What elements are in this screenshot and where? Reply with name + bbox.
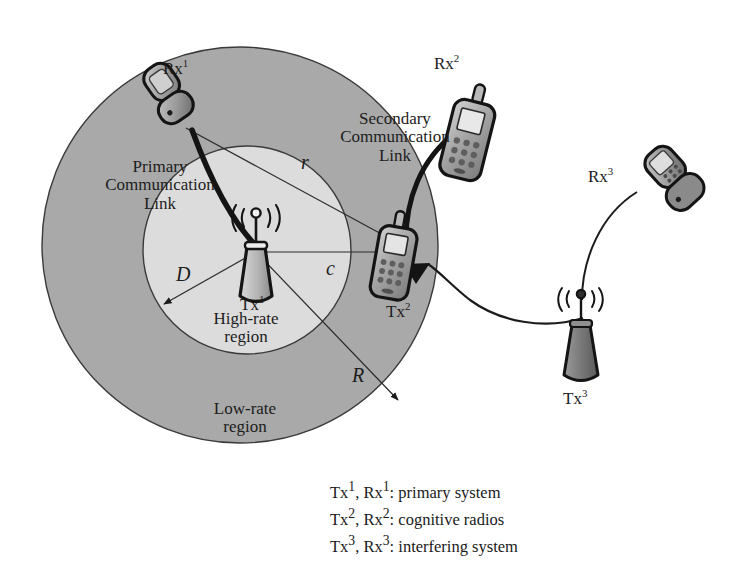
measure-c-label: c	[326, 258, 335, 280]
measure-R-label: R	[352, 365, 364, 387]
tx2-label: Tx2	[386, 303, 410, 321]
primary-link-line2: Communication	[85, 176, 235, 194]
legend-tx: Tx	[330, 483, 348, 502]
tx1-antenna-tip	[251, 208, 260, 217]
legend-rx: Rx	[363, 483, 382, 502]
low-rate-line2: region	[180, 418, 310, 436]
measure-D-label: D	[176, 264, 190, 286]
primary-link-line3: Link	[85, 195, 235, 213]
secondary-link-line3: Link	[330, 147, 460, 165]
legend-row: Tx2, Rx2: cognitive radios	[330, 504, 518, 531]
high-rate-line1: High-rate	[181, 310, 311, 328]
low-rate-line1: Low-rate	[180, 400, 310, 418]
tx3-wave-left-inner	[567, 291, 569, 307]
tx3-tower-body	[564, 325, 598, 381]
rx3-flip-phone	[635, 140, 709, 216]
tertiary-link-curve	[582, 192, 637, 300]
tx3-label: Tx3	[563, 390, 587, 408]
rx2-phone-screen	[457, 108, 486, 135]
legend-rx: Rx	[363, 536, 382, 555]
high-rate-line2: region	[181, 328, 311, 346]
legend-row: Tx3, Rx3: interfering system	[330, 531, 518, 558]
rx3-label: Rx3	[588, 168, 613, 186]
legend-rx: Rx	[363, 509, 382, 528]
high-rate-region-label: High-rate region	[181, 310, 311, 347]
rx2-label: Rx2	[434, 55, 459, 73]
secondary-link-label: Secondary Communication Link	[330, 110, 460, 165]
low-rate-region-label: Low-rate region	[180, 400, 310, 437]
tx1-tower-collar	[245, 242, 267, 249]
primary-link-label: Primary Communication Link	[85, 158, 235, 213]
tx2-keypad	[377, 259, 405, 287]
tx3-antenna-tower	[558, 288, 603, 381]
legend-desc: : cognitive radios	[390, 509, 505, 528]
tx3-wave-right-outer	[599, 288, 603, 311]
tx3-tower-collar	[570, 320, 592, 327]
tx3-antenna-tip	[577, 290, 585, 298]
primary-link-line1: Primary	[85, 158, 235, 176]
tx1-tower-body	[240, 247, 272, 302]
secondary-link-line1: Secondary	[330, 110, 460, 128]
legend-tx: Tx	[330, 509, 348, 528]
legend-tx: Tx	[330, 536, 348, 555]
legend-desc: : interfering system	[390, 536, 518, 555]
measure-r-label: r	[301, 152, 309, 174]
rx1-label: Rx1	[163, 60, 188, 78]
tx3-wave-left-outer	[558, 288, 562, 311]
tx2-phone-screen	[383, 233, 408, 256]
legend-row: Tx1, Rx1: primary system	[330, 477, 518, 504]
legend-desc: : primary system	[390, 483, 501, 502]
tx3-wave-right-inner	[592, 291, 594, 307]
legend: Tx1, Rx1: primary system Tx2, Rx2: cogni…	[330, 477, 518, 558]
secondary-link-line2: Communication	[330, 128, 460, 146]
